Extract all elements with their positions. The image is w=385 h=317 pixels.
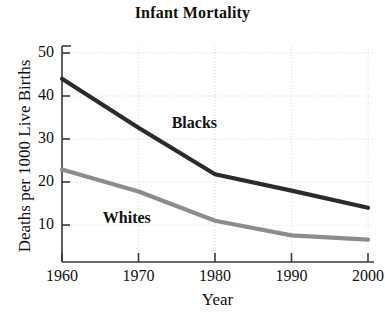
y-tick-label: 20 [24,172,54,190]
series-line-blacks [62,79,368,208]
x-tick-label: 1960 [35,267,89,285]
gridlines [62,46,373,262]
x-tick-label: 1980 [188,267,242,285]
infant-mortality-chart-figure: Infant Mortality Deaths per 1000 Live Bi… [0,0,385,317]
series-annotation-blacks: Blacks [172,114,217,132]
axis-lines [62,46,374,262]
y-tick-label: 50 [24,43,54,61]
x-tick-label: 2000 [341,267,385,285]
x-tick-label: 1970 [112,267,166,285]
x-tick-label: 1990 [265,267,319,285]
y-tick-label: 10 [24,215,54,233]
y-tick-label: 30 [24,129,54,147]
y-tick-label: 40 [24,86,54,104]
series-annotation-whites: Whites [103,209,151,227]
